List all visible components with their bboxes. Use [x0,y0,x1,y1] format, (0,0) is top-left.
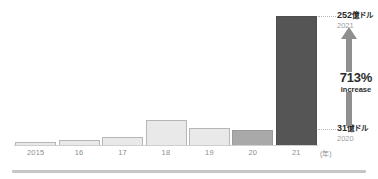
growth-callout: 713% increase [333,71,378,95]
bar-series [14,0,318,146]
arrow-shaft-lower [346,92,352,126]
bar-20 [232,130,273,146]
axis-baseline [14,145,318,146]
leader-line-bottom [318,129,336,130]
callout-bottom-year: 2020 [337,134,368,144]
bar-chart: 2015161718192021 (年) 252億ドル 2021 31億ドル 2… [0,0,378,179]
x-tick-21: 21 [275,148,318,157]
bar-19 [189,128,230,146]
bar-21 [276,16,317,146]
x-tick-16: 16 [57,148,100,157]
plot-area [0,0,378,148]
x-tick-20: 20 [231,148,274,157]
x-axis-ticks: 2015161718192021 [14,148,318,162]
bar-18 [146,120,187,146]
x-axis-unit-label: (年) [320,148,332,158]
growth-label: increase [333,85,378,95]
leader-line-top [318,16,336,17]
x-tick-18: 18 [144,148,187,157]
bottom-rule [12,170,366,173]
callout-top-unit: 億ドル [352,11,373,20]
x-tick-19: 19 [188,148,231,157]
x-tick-2015: 2015 [14,148,57,157]
callout-top-value: 252億ドル [337,10,373,21]
arrow-shaft-upper [346,38,352,72]
growth-percent: 713% [333,71,378,85]
callout-top-number: 252 [337,10,352,20]
x-tick-17: 17 [101,148,144,157]
